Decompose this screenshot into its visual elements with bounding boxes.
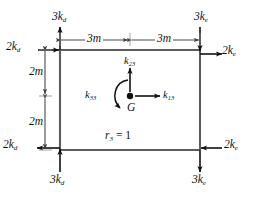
label-bottom-left-horizontal-force: 2kd: [3, 139, 17, 152]
label-unit-displacement: r3 = 1: [105, 130, 131, 143]
label-bottom-left-vertical-force: 3kd: [50, 174, 64, 187]
label-center-moment: k33: [85, 90, 96, 101]
label-bottom-right-vertical-force: 3ke: [192, 174, 206, 187]
label-centroid-g: G: [127, 102, 135, 114]
diagram-canvas: 3kd 2kd 3ke 2ke 2kd 3kd 2ke 3ke k23 k13 …: [0, 0, 257, 199]
label-top-left-horizontal-force: 2kd: [6, 41, 20, 54]
dimension-label-left-lower: 2m: [28, 116, 44, 128]
dimension-line-top: [60, 33, 200, 46]
label-top-right-vertical-force: 3ke: [194, 11, 208, 24]
dimension-label-left-upper: 2m: [28, 66, 44, 78]
centroid-point: [127, 93, 133, 99]
diagram-vector-layer: [0, 0, 257, 199]
label-center-up-force: k23: [124, 56, 135, 67]
dimension-label-top-right: 3m: [155, 33, 173, 45]
label-bottom-right-horizontal-force: 2ke: [224, 139, 238, 152]
dimension-label-top-left: 3m: [85, 33, 103, 45]
label-top-right-horizontal-force: 2ke: [222, 45, 236, 58]
label-top-left-vertical-force: 3kd: [52, 11, 66, 24]
label-center-right-force: k13: [163, 90, 174, 101]
